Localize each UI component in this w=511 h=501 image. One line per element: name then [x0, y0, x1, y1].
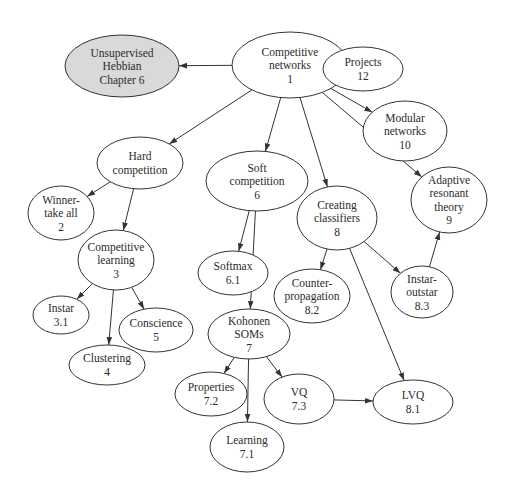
node-n12: Projects12	[323, 47, 403, 91]
node-label-line: networks	[269, 59, 312, 71]
node-label-line: Competitive	[88, 241, 145, 254]
node-label-line: 8.2	[305, 304, 320, 316]
edge-n7-to-n7_2	[224, 357, 234, 373]
node-n10: Modularnetworks10	[363, 101, 447, 161]
node-hard: Hardcompetition	[97, 137, 183, 189]
node-n8_2: Counter-propagation8.2	[274, 269, 350, 323]
node-n7_3: VQ7.3	[264, 374, 334, 424]
node-label-line: Clustering	[83, 352, 131, 365]
edge-n8-to-n8_2	[320, 249, 327, 270]
arrow-line	[320, 249, 327, 270]
arrow-line	[350, 248, 405, 380]
node-n6: Softcompetition6	[206, 151, 308, 211]
node-label-line: classifiers	[314, 212, 361, 224]
node-label-line: 2	[58, 221, 64, 233]
node-label-line: 12	[357, 70, 369, 82]
edge-n7-to-n7_1	[247, 359, 248, 422]
node-label-line: Kohonen	[228, 315, 270, 327]
edge-n3-to-n3_1	[77, 284, 93, 300]
arrow-line	[364, 242, 400, 274]
arrow-line	[429, 232, 439, 267]
node-label-line: Adaptive	[428, 174, 470, 187]
node-n3_1: Instar3.1	[33, 296, 89, 334]
node-label-line: 5	[153, 331, 159, 343]
node-label-line: Soft	[247, 162, 267, 174]
edge-n1-to-hard	[169, 90, 252, 144]
edge-n7_3-to-n8_1	[334, 400, 373, 401]
arrow-line	[109, 290, 114, 345]
node-label-line: 8.3	[415, 300, 430, 312]
node-n8_3: Instar-outstar8.3	[391, 266, 453, 318]
node-n7: KohonenSOMs7	[208, 309, 290, 359]
node-n7_2: Properties7.2	[175, 372, 247, 416]
node-n7_1: Learning7.1	[210, 422, 284, 472]
node-label-line: 10	[399, 139, 411, 151]
node-label-line: Hebbian	[103, 60, 142, 72]
arrow-line	[247, 359, 248, 422]
node-label-line: 3	[113, 268, 119, 280]
node-label-line: 6.1	[226, 274, 241, 286]
edge-n8-to-n8_1	[350, 248, 405, 380]
edge-n3-to-n4	[109, 290, 114, 345]
arrow-line	[123, 189, 133, 231]
node-hebbian: UnsupervisedHebbianChapter 6	[65, 35, 179, 97]
concept-map-canvas: UnsupervisedHebbianChapter 6Competitiven…	[0, 0, 511, 501]
arrow-line	[266, 357, 282, 377]
node-label-line: 7	[246, 342, 252, 354]
node-label-line: competition	[113, 164, 168, 177]
node-label-line: learning	[97, 254, 135, 267]
concept-map-diagram: UnsupervisedHebbianChapter 6Competitiven…	[0, 0, 511, 501]
node-label-line: 3.1	[54, 316, 69, 328]
edge-hard-to-n3	[123, 189, 133, 231]
node-n9: Adaptiveresonanttheory9	[411, 167, 487, 233]
node-label-line: Softmax	[214, 260, 253, 272]
node-label-line: Instar-	[407, 273, 437, 285]
edge-n6-to-n6_1	[239, 211, 250, 252]
node-label-line: 6	[254, 189, 260, 201]
nodes-layer: UnsupervisedHebbianChapter 6Competitiven…	[28, 32, 487, 472]
node-label-line: Instar	[48, 302, 74, 314]
node-n6_1: Softmax6.1	[198, 251, 268, 295]
node-label-line: Modular	[385, 112, 425, 124]
node-n3: Competitivelearning3	[78, 230, 154, 290]
edge-n1-to-n10	[331, 88, 372, 112]
node-n4: Clustering4	[69, 345, 145, 385]
arrow-line	[265, 98, 280, 152]
node-n8: Creatingclassifiers8	[297, 186, 377, 250]
node-n8_1: LVQ8.1	[373, 380, 453, 424]
node-n2: Winner-take all2	[28, 186, 94, 240]
node-label-line: 7.3	[292, 400, 307, 412]
arrow-line	[334, 400, 373, 401]
edge-n3-to-n5	[132, 287, 144, 309]
node-label-line: 4	[104, 366, 110, 378]
node-label-line: theory	[434, 201, 464, 214]
node-label-line: Unsupervised	[90, 47, 153, 60]
node-n5: Conscience5	[119, 308, 193, 352]
arrow-line	[239, 211, 250, 252]
edge-n8_3-to-n9	[429, 232, 439, 267]
edge-n7-to-n7_3	[266, 357, 282, 377]
arrow-line	[77, 284, 93, 300]
edge-hard-to-n2	[87, 182, 110, 197]
node-label-line: LVQ	[402, 389, 425, 401]
arrow-line	[87, 182, 110, 197]
node-label-line: Properties	[188, 381, 235, 394]
node-label-line: Learning	[226, 434, 268, 447]
node-label-line: Winner-	[42, 194, 80, 206]
arrow-line	[169, 90, 252, 144]
node-label-line: 9	[446, 214, 452, 226]
node-label-line: competition	[230, 175, 285, 188]
edge-n8-to-n8_3	[364, 242, 400, 274]
arrow-line	[132, 287, 144, 309]
node-label-line: Creating	[317, 199, 357, 212]
arrow-line	[331, 88, 372, 112]
node-label-line: VQ	[291, 386, 308, 398]
node-label-line: Competitive	[262, 46, 319, 59]
edge-n1-to-n6	[265, 98, 280, 152]
node-label-line: Counter-	[292, 277, 333, 289]
arrow-line	[224, 357, 234, 373]
node-label-line: 7.2	[204, 395, 219, 407]
node-label-line: 1	[287, 73, 293, 85]
node-label-line: Projects	[344, 56, 382, 69]
node-label-line: outstar	[406, 286, 437, 298]
